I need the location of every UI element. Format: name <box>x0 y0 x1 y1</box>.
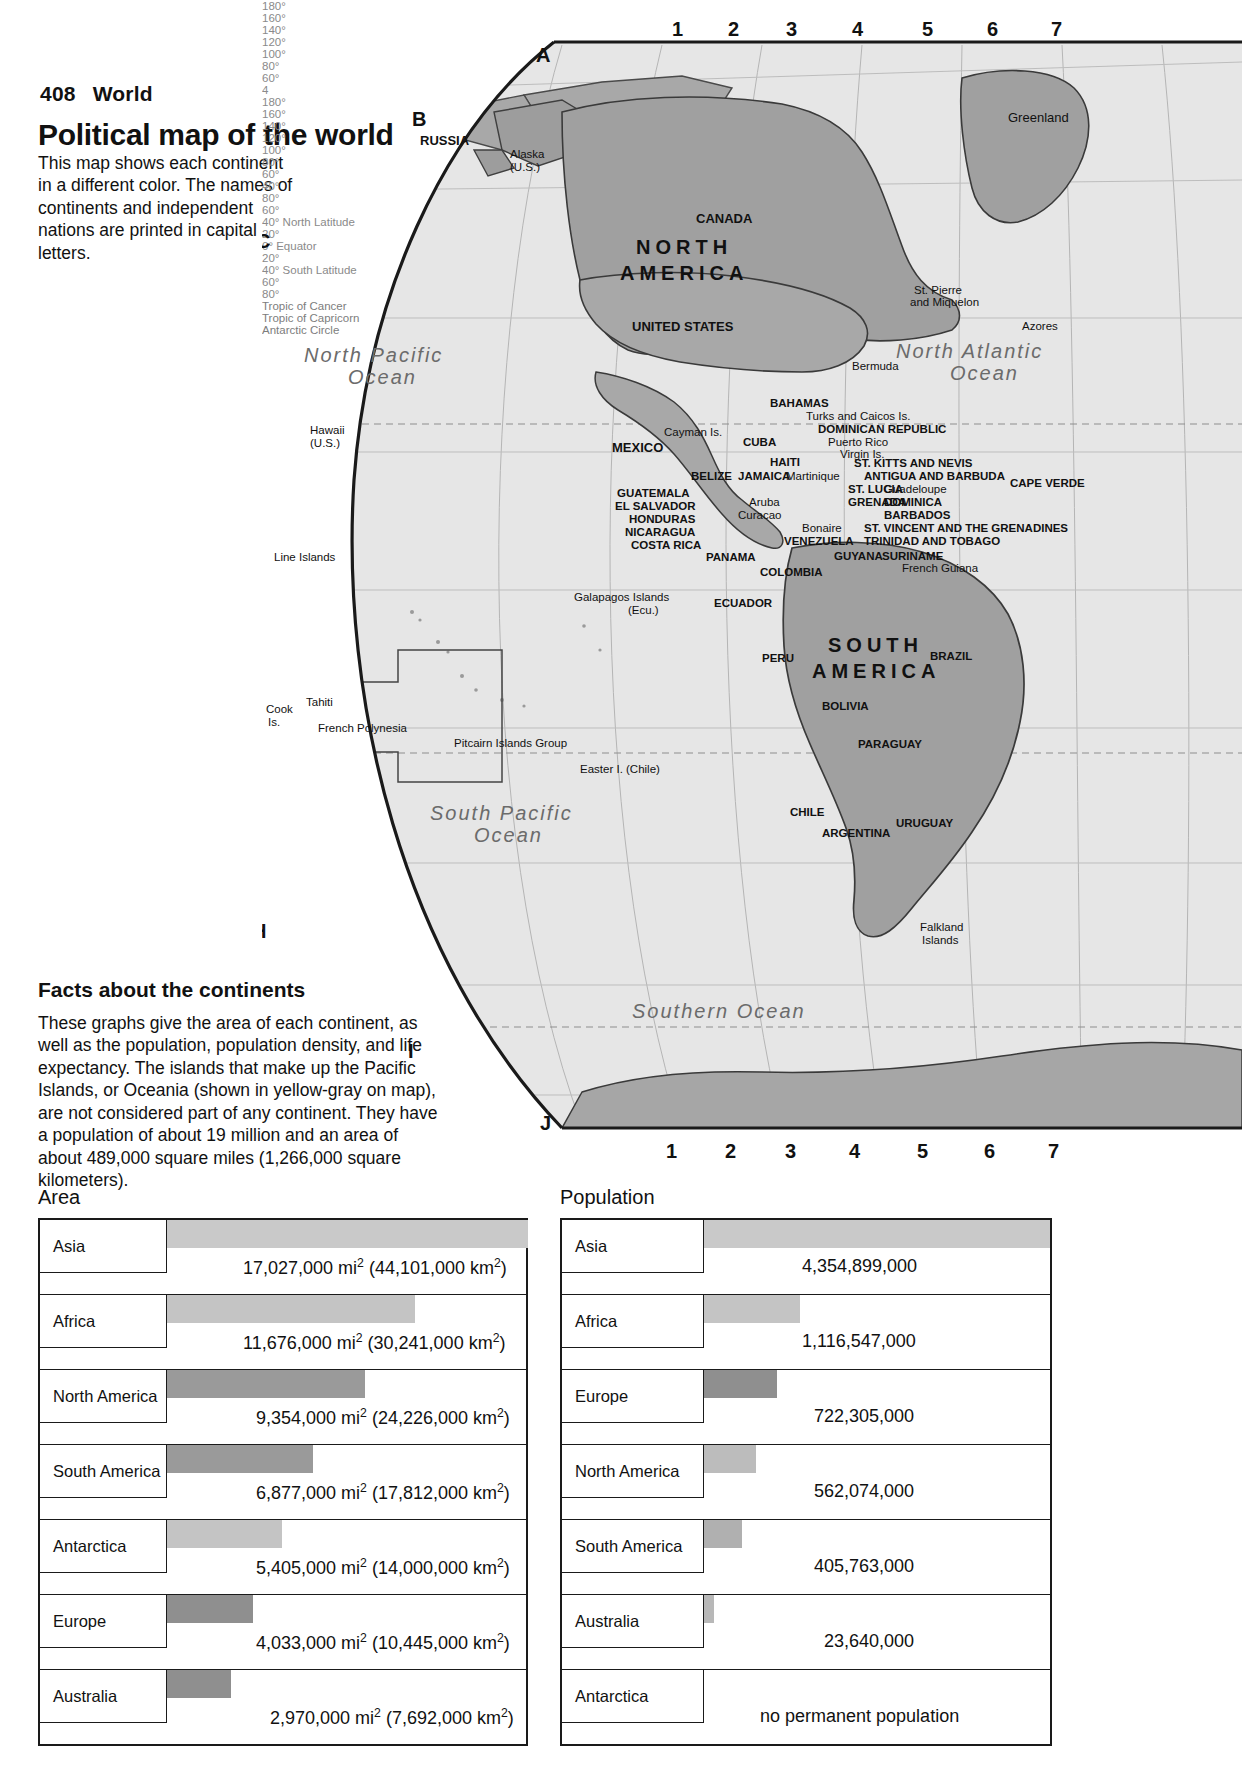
table-row[interactable]: Europe 4,033,000 mi2 (10,445,000 km2) <box>40 1595 526 1670</box>
population-row-value-antarctica: no permanent population <box>760 1706 959 1727</box>
map-graphic <box>262 0 1242 1175</box>
country-label-cuba: CUBA <box>743 436 776 448</box>
country-label-canada: CANADA <box>696 211 752 226</box>
area-bar-asia <box>167 1220 528 1248</box>
table-row[interactable]: Asia 17,027,000 mi2 (44,101,000 km2) <box>40 1220 526 1295</box>
table-row[interactable]: South America 6,877,000 mi2 (17,812,000 … <box>40 1445 526 1520</box>
place-label-aruba: Aruba <box>749 496 780 508</box>
ocean-label-south-pacific: South Pacific <box>430 802 573 825</box>
ocean-label-north-pacific-2: Ocean <box>348 366 417 389</box>
population-row-label-asia: Asia <box>562 1220 704 1273</box>
place-label-alaska: Alaska <box>510 148 545 160</box>
population-row-label-antarctica: Antarctica <box>562 1670 704 1723</box>
area-row-value-australia: 2,970,000 mi2 (7,692,000 km2) <box>270 1706 514 1729</box>
place-label-st-pierre: St. Pierre <box>914 284 962 296</box>
area-row-value-africa: 11,676,000 mi2 (30,241,000 km2) <box>243 1331 505 1354</box>
population-row-label-europe: Europe <box>562 1370 704 1423</box>
area-row-label-europe: Europe <box>40 1595 167 1648</box>
table-row[interactable]: Europe 722,305,000 <box>562 1370 1050 1445</box>
table-row[interactable]: North America 9,354,000 mi2 (24,226,000 … <box>40 1370 526 1445</box>
ocean-label-north-pacific: North Pacific <box>304 344 443 367</box>
population-chart: Population Asia 4,354,899,000 Africa 1,1… <box>560 1186 1052 1746</box>
grid-number-top-1: 1 <box>672 18 683 41</box>
country-label-guatemala: GUATEMALA <box>617 487 690 499</box>
area-row-label-south-america: South America <box>40 1445 167 1498</box>
country-label-trinidad-and-tobago: TRINIDAD AND TOBAGO <box>864 535 1000 547</box>
table-row[interactable]: Antarctica no permanent population <box>562 1670 1050 1744</box>
population-bar-africa <box>704 1295 800 1323</box>
country-label-barbados: BARBADOS <box>884 509 950 521</box>
table-row[interactable]: North America 562,074,000 <box>562 1445 1050 1520</box>
table-row[interactable]: Africa 1,116,547,000 <box>562 1295 1050 1370</box>
place-label-cook-is: Is. <box>268 716 280 728</box>
country-label-bolivia: BOLIVIA <box>822 700 869 712</box>
grid-letter-B: B <box>412 108 426 131</box>
population-row-value-south-america: 405,763,000 <box>814 1556 914 1577</box>
area-row-value-asia: 17,027,000 mi2 (44,101,000 km2) <box>243 1256 507 1279</box>
place-label-cook: Cook <box>266 703 293 715</box>
country-label-mexico: MEXICO <box>612 440 663 455</box>
place-label-french-polynesia: French Polynesia <box>318 722 407 734</box>
grid-letter-H: H <box>262 920 266 943</box>
country-label-bahamas: BAHAMAS <box>770 397 829 409</box>
world-map[interactable]: 1 2 3 4 5 6 7 1 2 3 4 5 6 7 A B C D E F … <box>262 0 1242 1175</box>
continent-label-south-america-2: AMERICA <box>812 660 940 683</box>
area-bar-antarctica <box>167 1520 282 1548</box>
place-label-azores: Azores <box>1022 320 1058 332</box>
area-row-label-australia: Australia <box>40 1670 167 1723</box>
country-label-united-states: UNITED STATES <box>632 319 733 334</box>
place-label-bermuda: Bermuda <box>852 360 899 372</box>
table-row[interactable]: South America 405,763,000 <box>562 1520 1050 1595</box>
country-label-venezuela: VENEZUELA <box>784 535 854 547</box>
continent-label-north-america-2: AMERICA <box>620 262 748 285</box>
population-row-value-europe: 722,305,000 <box>814 1406 914 1427</box>
grid-number-top-3: 3 <box>786 18 797 41</box>
page-number: 408 <box>40 82 76 105</box>
page-section: World <box>93 82 153 105</box>
grid-number-top-5: 5 <box>922 18 933 41</box>
intro-paragraph: This map shows each continent in a diffe… <box>38 152 298 264</box>
place-label-alaska-us: (U.S.) <box>510 161 540 173</box>
grid-number-bottom-2: 2 <box>725 1140 736 1163</box>
table-row[interactable]: Africa 11,676,000 mi2 (30,241,000 km2) <box>40 1295 526 1370</box>
country-label-belize: BELIZE <box>691 470 732 482</box>
place-label-galapagos-ecu: (Ecu.) <box>628 604 659 616</box>
population-row-value-australia: 23,640,000 <box>824 1631 914 1652</box>
table-row[interactable]: Antarctica 5,405,000 mi2 (14,000,000 km2… <box>40 1520 526 1595</box>
area-bar-africa <box>167 1295 415 1323</box>
population-bar-asia <box>704 1220 1050 1248</box>
population-row-label-australia: Australia <box>562 1595 704 1648</box>
place-label-guadeloupe: Guadeloupe <box>884 483 947 495</box>
area-row-value-south-america: 6,877,000 mi2 (17,812,000 km2) <box>256 1481 510 1504</box>
area-row-label-antarctica: Antarctica <box>40 1520 167 1573</box>
place-label-and-miquelon: and Miquelon <box>910 296 979 308</box>
place-label-galapagos: Galapagos Islands <box>574 591 669 603</box>
ocean-label-south-pacific-2: Ocean <box>474 824 543 847</box>
country-label-nicaragua: NICARAGUA <box>625 526 695 538</box>
area-bar-australia <box>167 1670 231 1698</box>
country-label-costa-rica: COSTA RICA <box>631 539 701 551</box>
place-label-line-islands: Line Islands <box>274 551 335 563</box>
place-label-hawaii-us: (U.S.) <box>310 437 340 449</box>
population-row-value-africa: 1,116,547,000 <box>802 1331 916 1352</box>
grid-number-bottom-4: 4 <box>849 1140 860 1163</box>
country-label-colombia: COLOMBIA <box>760 566 823 578</box>
country-label-grenada: GRENADA <box>848 496 906 508</box>
area-bar-north-america <box>167 1370 365 1398</box>
area-bar-south-america <box>167 1445 313 1473</box>
country-label-suriname: SURINAME <box>882 550 943 562</box>
continent-label-south-america: SOUTH <box>828 634 923 657</box>
area-row-value-antarctica: 5,405,000 mi2 (14,000,000 km2) <box>256 1556 510 1579</box>
grid-letter-I: I <box>408 1040 414 1063</box>
place-label-tahiti: Tahiti <box>306 696 333 708</box>
ocean-label-north-atlantic-2: Ocean <box>950 362 1019 385</box>
table-row[interactable]: Australia 2,970,000 mi2 (7,692,000 km2) <box>40 1670 526 1744</box>
table-row[interactable]: Australia 23,640,000 <box>562 1595 1050 1670</box>
population-bar-australia <box>704 1595 714 1623</box>
grid-number-top-7: 7 <box>1051 18 1062 41</box>
place-label-pitcairn: Pitcairn Islands Group <box>454 737 567 749</box>
place-label-martinique: Martinique <box>786 470 840 482</box>
country-label-paraguay: PARAGUAY <box>858 738 922 750</box>
country-label-argentina: ARGENTINA <box>822 827 890 839</box>
table-row[interactable]: Asia 4,354,899,000 <box>562 1220 1050 1295</box>
